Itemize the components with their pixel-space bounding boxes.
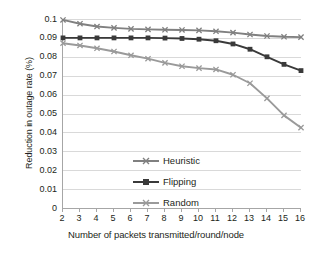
y-tick-label: 0	[52, 204, 57, 213]
outage-rate-line-chart: Reduction in outage rate (%) 00.010.020.…	[0, 0, 312, 256]
legend-swatch-heuristic	[133, 156, 159, 166]
x-tick-mark	[147, 208, 148, 212]
series-random	[60, 41, 303, 131]
y-tick-label: 0.05	[39, 109, 57, 118]
y-tick-label: 0.01	[39, 185, 57, 194]
legend-swatch-random	[133, 198, 159, 208]
x-tick-mark	[62, 208, 63, 212]
x-tick-mark	[266, 208, 267, 212]
x-tick-label: 4	[93, 213, 98, 223]
data-point-marker	[163, 36, 168, 41]
x-axis-tick-labels: 2345678910111213141516	[0, 213, 312, 227]
y-tick-label: 0.03	[39, 147, 57, 156]
y-tick-label: 0.07	[39, 71, 57, 80]
x-tick-label: 6	[127, 213, 132, 223]
y-tick-label: 0.1	[44, 15, 57, 24]
data-point-marker	[214, 38, 219, 43]
x-tick-label: 16	[295, 213, 305, 223]
x-tick-mark	[113, 208, 114, 212]
data-point-marker	[146, 36, 151, 41]
data-point-marker	[299, 68, 304, 73]
legend-item-heuristic: Heuristic	[133, 150, 225, 171]
y-tick-label: 0.06	[39, 90, 57, 99]
x-tick-label: 14	[261, 213, 271, 223]
x-tick-label: 9	[178, 213, 183, 223]
x-tick-mark	[249, 208, 250, 212]
x-tick-mark	[198, 208, 199, 212]
data-point-marker	[264, 96, 269, 101]
series-flipping	[61, 36, 304, 74]
x-tick-label: 7	[144, 213, 149, 223]
x-tick-label: 3	[76, 213, 81, 223]
x-tick-mark	[232, 208, 233, 212]
x-tick-label: 13	[244, 213, 254, 223]
x-tick-mark	[96, 208, 97, 212]
chart-legend: Heuristic Flipping Random	[133, 150, 225, 213]
legend-swatch-flipping	[133, 177, 159, 187]
data-point-marker	[129, 36, 134, 41]
x-tick-label: 8	[161, 213, 166, 223]
x-tick-label: 5	[110, 213, 115, 223]
data-point-marker	[61, 36, 66, 41]
x-tick-mark	[215, 208, 216, 212]
x-tick-label: 10	[193, 213, 203, 223]
x-axis-title: Number of packets transmitted/round/node	[0, 229, 312, 240]
plot-area: Heuristic Flipping Random	[62, 19, 301, 208]
x-tick-label: 11	[210, 213, 219, 223]
data-point-marker	[298, 125, 303, 130]
legend-label-heuristic: Heuristic	[163, 156, 200, 166]
x-tick-mark	[130, 208, 131, 212]
y-tick-label: 0.02	[39, 166, 57, 175]
x-tick-mark	[300, 208, 301, 212]
x-tick-label: 12	[227, 213, 237, 223]
data-point-marker	[265, 54, 270, 59]
data-point-marker	[95, 36, 100, 41]
x-tick-mark	[164, 208, 165, 212]
data-point-marker	[248, 47, 253, 52]
data-point-marker	[282, 62, 287, 67]
x-tick-label: 15	[278, 213, 288, 223]
data-point-marker	[180, 36, 185, 41]
legend-label-random: Random	[163, 198, 199, 208]
x-tick-label: 2	[59, 213, 64, 223]
legend-label-flipping: Flipping	[163, 177, 196, 187]
legend-item-flipping: Flipping	[133, 171, 225, 192]
y-tick-label: 0.09	[39, 33, 57, 42]
x-tick-mark	[79, 208, 80, 212]
x-tick-mark	[283, 208, 284, 212]
y-tick-label: 0.04	[39, 128, 57, 137]
data-point-marker	[112, 36, 117, 41]
y-tick-label: 0.08	[39, 52, 57, 61]
data-point-marker	[197, 37, 202, 42]
data-point-marker	[281, 113, 286, 118]
data-point-marker	[231, 42, 236, 47]
data-point-marker	[78, 36, 83, 41]
x-tick-mark	[181, 208, 182, 212]
